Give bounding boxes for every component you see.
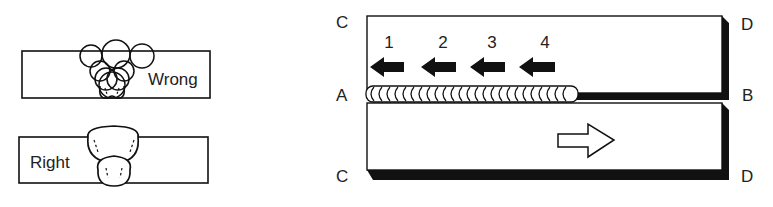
sequence-number-3: 3 [487, 33, 496, 52]
wrong-weld-cross-section: Wrong [22, 40, 210, 98]
lower-plate-face [367, 103, 722, 170]
sequence-number-4: 4 [540, 33, 549, 52]
label-d-top: D [741, 15, 753, 34]
label-c-top: C [336, 13, 348, 32]
welding-diagram: Wrong Right 1 2 [0, 0, 773, 207]
label-b: B [742, 86, 753, 105]
label-c-bottom: C [336, 167, 348, 186]
right-root-bead [98, 156, 131, 186]
lower-plate [367, 103, 729, 180]
weld-bead [366, 86, 578, 102]
right-label: Right [30, 153, 70, 172]
right-weld-cross-section: Right [19, 126, 208, 186]
sequence-number-2: 2 [438, 33, 447, 52]
label-a: A [336, 86, 348, 105]
wrong-label: Wrong [148, 70, 198, 89]
upper-plate-face [367, 16, 722, 93]
weld-bead-outline [366, 86, 578, 102]
sequence-number-1: 1 [384, 33, 393, 52]
label-d-bottom: D [741, 167, 753, 186]
